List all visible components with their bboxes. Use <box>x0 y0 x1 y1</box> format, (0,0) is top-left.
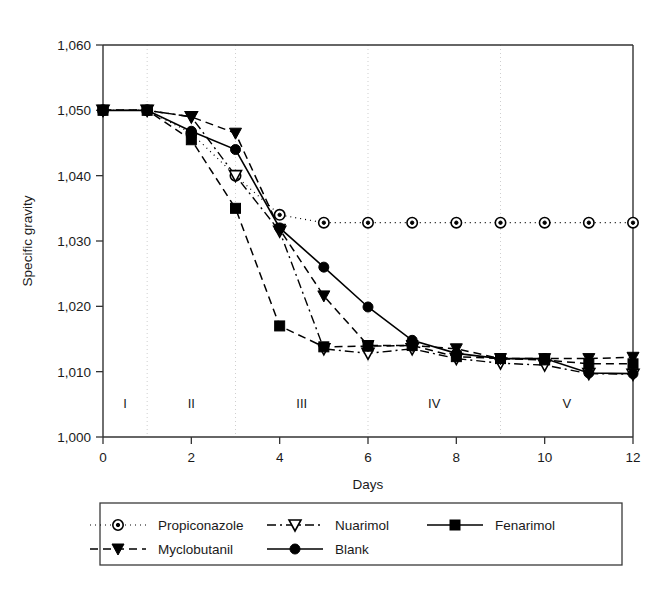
x-tick-label: 12 <box>625 450 640 465</box>
chart-figure: 1,0001,0101,0201,0301,0401,0501,060Speci… <box>0 0 663 595</box>
phase-label-I: I <box>123 396 127 411</box>
x-tick-label: 0 <box>99 450 107 465</box>
data-point-propiconazole-11-center <box>587 221 590 224</box>
legend-marker-propiconazole-center <box>116 523 119 526</box>
data-point-blank-2 <box>186 126 196 136</box>
data-point-blank-10 <box>540 354 550 364</box>
y-axis-title: Specific gravity <box>20 195 35 286</box>
data-point-blank-11 <box>584 368 594 378</box>
legend-marker-blank <box>290 544 300 554</box>
legend-label-nuarimol: Nuarimol <box>335 518 389 533</box>
data-point-propiconazole-7-center <box>410 221 413 224</box>
y-tick-label: 1,050 <box>57 103 91 118</box>
series-group <box>97 105 639 380</box>
data-point-blank-1 <box>142 105 152 115</box>
data-point-propiconazole-12-center <box>631 221 634 224</box>
legend-label-fenarimol: Fenarimol <box>495 518 555 533</box>
data-point-blank-4 <box>275 223 285 233</box>
data-point-blank-9 <box>496 354 506 364</box>
legend-label-blank: Blank <box>335 542 369 557</box>
legend: PropiconazoleNuarimolFenarimolMyclobutan… <box>90 503 622 565</box>
data-point-blank-8 <box>451 348 461 358</box>
data-point-propiconazole-5-center <box>322 221 325 224</box>
legend-item-myclobutanil[interactable]: Myclobutanil <box>90 542 233 557</box>
specific-gravity-line-chart: 1,0001,0101,0201,0301,0401,0501,060Speci… <box>0 0 663 595</box>
data-point-fenarimol-3 <box>231 203 241 213</box>
legend-label-propiconazole: Propiconazole <box>158 518 244 533</box>
phase-label-III: III <box>296 396 307 411</box>
data-point-fenarimol-5 <box>319 342 329 352</box>
x-tick-label: 10 <box>537 450 552 465</box>
y-tick-label: 1,000 <box>57 430 91 445</box>
series-nuarimol[interactable] <box>97 105 639 380</box>
phase-label-II: II <box>188 396 195 411</box>
y-tick-label: 1,030 <box>57 234 91 249</box>
x-axis-group: 024681012Days <box>99 437 640 492</box>
legend-item-blank[interactable]: Blank <box>267 542 369 557</box>
x-axis-title: Days <box>353 477 384 492</box>
x-tick-label: 2 <box>188 450 196 465</box>
data-point-blank-0 <box>98 105 108 115</box>
data-point-myclobutanil-2 <box>185 112 197 123</box>
data-point-blank-5 <box>319 262 329 272</box>
data-point-fenarimol-4 <box>275 321 285 331</box>
phase-label-IV: IV <box>428 396 441 411</box>
data-point-blank-12 <box>628 369 638 379</box>
gridlines-group <box>147 45 500 437</box>
phase-annotations: IIIIIIIVV <box>123 396 571 411</box>
legend-label-myclobutanil: Myclobutanil <box>158 542 233 557</box>
legend-marker-fenarimol <box>450 520 460 530</box>
data-point-propiconazole-9-center <box>499 221 502 224</box>
y-tick-label: 1,020 <box>57 299 91 314</box>
y-axis-group: 1,0001,0101,0201,0301,0401,0501,060Speci… <box>20 38 103 445</box>
y-tick-label: 1,040 <box>57 169 91 184</box>
legend-item-fenarimol[interactable]: Fenarimol <box>427 518 555 533</box>
data-point-myclobutanil-3 <box>230 128 242 139</box>
legend-item-propiconazole[interactable]: Propiconazole <box>90 518 244 533</box>
legend-item-nuarimol[interactable]: Nuarimol <box>267 518 389 533</box>
data-point-blank-3 <box>231 145 241 155</box>
phase-label-V: V <box>562 396 571 411</box>
data-point-propiconazole-10-center <box>543 221 546 224</box>
y-tick-label: 1,010 <box>57 365 91 380</box>
y-tick-label: 1,060 <box>57 38 91 53</box>
data-point-propiconazole-8-center <box>455 221 458 224</box>
data-point-blank-6 <box>363 302 373 312</box>
data-point-blank-7 <box>407 335 417 345</box>
data-point-propiconazole-4-center <box>278 213 281 216</box>
data-point-propiconazole-6-center <box>366 221 369 224</box>
x-tick-label: 4 <box>276 450 284 465</box>
x-tick-label: 8 <box>453 450 461 465</box>
x-tick-label: 6 <box>364 450 372 465</box>
